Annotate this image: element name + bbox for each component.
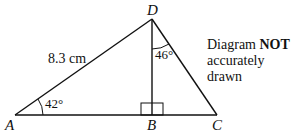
angle-D-label: 46°: [155, 47, 173, 62]
point-label-C: C: [212, 117, 223, 133]
side-length-label: 8.3 cm: [48, 51, 86, 66]
note-line2: accurately drawn: [207, 53, 265, 84]
point-label-A: A: [4, 117, 15, 133]
point-label-D: D: [146, 2, 158, 18]
angle-A-label: 42°: [45, 96, 63, 111]
disclaimer-note: Diagram NOT accurately drawn: [207, 37, 301, 85]
point-label-B: B: [147, 117, 156, 133]
note-prefix: Diagram: [207, 37, 259, 52]
note-bold: NOT: [259, 37, 289, 52]
angle-arc-A: [38, 99, 43, 115]
segment-AD: [15, 19, 152, 115]
